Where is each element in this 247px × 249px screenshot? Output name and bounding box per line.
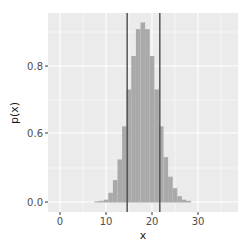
histogram-bar xyxy=(173,188,178,202)
histogram-bar xyxy=(145,29,150,202)
x-tick-label: 0 xyxy=(57,216,63,227)
y-tick-label: 0.0 xyxy=(27,197,43,208)
x-axis-title: x xyxy=(140,229,147,242)
histogram-bar xyxy=(104,200,109,203)
histogram-bar xyxy=(122,126,127,202)
histogram-bar xyxy=(154,89,159,202)
histogram-bar xyxy=(150,56,155,203)
histogram-bar xyxy=(168,177,173,203)
histogram-bar xyxy=(113,180,118,202)
y-axis-title: p(x) xyxy=(8,102,21,124)
histogram-bar xyxy=(118,159,123,202)
x-tick-label: 30 xyxy=(192,216,205,227)
histogram-bar xyxy=(95,201,100,202)
histogram-chart: 0.00.60.8 0102030 x p(x) xyxy=(0,0,247,249)
y-tick-label: 0.8 xyxy=(27,61,43,72)
y-axis: 0.00.60.8 xyxy=(27,61,48,208)
x-axis: 0102030 xyxy=(57,212,205,227)
histogram-bar xyxy=(136,29,141,202)
histogram-bar xyxy=(108,193,113,203)
histogram-bar xyxy=(131,56,136,203)
y-tick-label: 0.6 xyxy=(27,128,43,139)
histogram-bar xyxy=(164,157,169,202)
histogram-bar xyxy=(99,201,104,203)
x-tick-label: 10 xyxy=(100,216,113,227)
histogram-bar xyxy=(187,201,192,203)
x-tick-label: 20 xyxy=(146,216,159,227)
histogram-bar xyxy=(182,200,187,203)
histogram-bar xyxy=(141,22,146,202)
histogram-bar xyxy=(177,196,182,202)
